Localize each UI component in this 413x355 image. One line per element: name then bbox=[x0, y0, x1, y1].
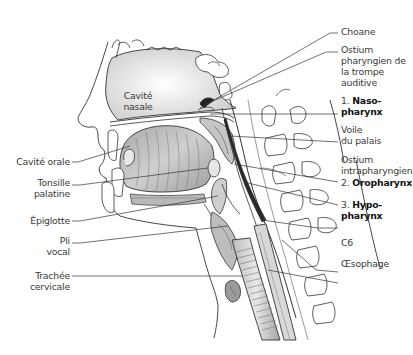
label-line: Tonsille bbox=[34, 177, 70, 188]
label-hypopharynx: 3. Hypo- pharynx bbox=[341, 199, 382, 221]
label-cavite-nasale: Cavité nasale bbox=[118, 90, 158, 112]
label-text: Oropharynx bbox=[352, 177, 412, 188]
label-number: 3. bbox=[341, 199, 349, 210]
label-nasopharynx: 1. Naso- pharynx bbox=[341, 95, 382, 117]
label-ostium-pharyngien: Ostium pharyngien de la trompe auditive bbox=[341, 44, 406, 88]
label-line: palatine bbox=[34, 188, 70, 199]
label-line: cervicale bbox=[30, 281, 70, 292]
label-line: pharynx bbox=[341, 210, 382, 221]
label-c6: C6 bbox=[341, 237, 353, 248]
label-line: pharynx bbox=[341, 106, 382, 117]
label-line: Naso- bbox=[352, 95, 381, 106]
decorative-stroke bbox=[276, 89, 290, 96]
label-line: du palais bbox=[341, 135, 381, 146]
label-line: nasale bbox=[118, 101, 158, 112]
label-text: Œsophage bbox=[341, 258, 389, 269]
label-line: Ostium bbox=[341, 44, 406, 55]
label-line: auditive bbox=[341, 77, 406, 88]
label-text: Épiglotte bbox=[30, 215, 70, 226]
label-line: Trachée bbox=[30, 270, 70, 281]
label-pli-vocal: Pli vocal bbox=[46, 235, 70, 257]
label-voile-du-palais: Voile du palais bbox=[341, 124, 381, 146]
label-line: pharyngien de bbox=[341, 55, 406, 66]
label-number: 1. bbox=[341, 95, 349, 106]
jaws bbox=[102, 130, 124, 213]
thyroid bbox=[225, 281, 240, 302]
label-number: 2. bbox=[341, 177, 349, 188]
label-text: Cavité orale bbox=[16, 156, 70, 167]
label-line: vocal bbox=[46, 246, 70, 257]
label-text: Choane bbox=[341, 26, 375, 37]
label-text: C6 bbox=[341, 237, 353, 248]
label-cavite-orale: Cavité orale bbox=[16, 156, 70, 167]
label-oesophage: Œsophage bbox=[341, 258, 389, 269]
label-line: Cavité bbox=[118, 90, 158, 101]
label-line: Hypo- bbox=[352, 199, 382, 210]
label-line: Voile bbox=[341, 124, 381, 135]
label-oropharynx: 2. Oropharynx bbox=[341, 177, 412, 188]
label-epiglotte: Épiglotte bbox=[30, 215, 70, 226]
label-choane: Choane bbox=[341, 26, 375, 37]
label-line: intrapharyngien bbox=[341, 165, 413, 176]
label-line: Ostium bbox=[341, 154, 413, 165]
label-line: la trompe bbox=[341, 66, 406, 77]
nasal-cavity bbox=[106, 40, 236, 126]
tongue bbox=[120, 126, 214, 206]
label-line: Pli bbox=[46, 235, 70, 246]
label-ostium-intrapharyngien: Ostium intrapharyngien bbox=[341, 154, 413, 176]
label-trachee-cervicale: Trachée cervicale bbox=[30, 270, 70, 292]
label-tonsille-palatine: Tonsille palatine bbox=[34, 177, 70, 199]
